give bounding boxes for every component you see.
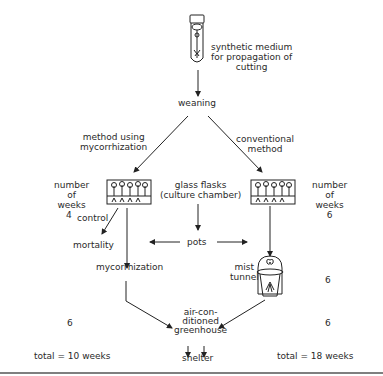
mist-line1: mist xyxy=(230,262,259,272)
right-weeks-value-1: 6 xyxy=(312,210,347,220)
left-weeks-line3: weeks xyxy=(54,200,89,210)
top-label-line1: synthetic medium xyxy=(211,42,292,52)
right-weeks-line3: weeks xyxy=(312,200,347,210)
mortality-label: mortality xyxy=(73,240,114,250)
right-weeks-line1: number xyxy=(312,180,347,190)
test-tube-icon xyxy=(190,15,204,62)
right-branch-title: conventional method xyxy=(236,134,294,154)
mist-tunnel-label: mist tunnel xyxy=(230,262,259,282)
pots-label: pots xyxy=(187,237,206,247)
mist-line2: tunnel xyxy=(230,272,259,282)
shelter-label: shelter xyxy=(182,353,213,363)
left-title-line1: method using xyxy=(80,132,147,142)
right-weeks-line2: of xyxy=(312,190,347,200)
greenhouse-label: air-con- ditioned greenhouse xyxy=(174,308,227,335)
left-weeks-line2: of xyxy=(54,190,89,200)
left-weeks-line1: number xyxy=(54,180,89,190)
right-weeks-value-3: 6 xyxy=(325,318,331,328)
left-title-line2: mycorrhization xyxy=(80,142,147,152)
control-label: control xyxy=(77,213,108,223)
mycorrhization-label: mycorrhization xyxy=(96,262,163,272)
mist-tunnel-pot-icon xyxy=(257,256,283,296)
top-label-line3: cutting xyxy=(211,62,292,72)
top-label-line2: for propagation of xyxy=(211,52,292,62)
right-title-line2: method xyxy=(236,144,294,154)
right-culture-box-icon xyxy=(251,180,295,204)
flasks-line1: glass flasks xyxy=(160,180,241,190)
flasks-label: glass flasks (culture chamber) xyxy=(160,180,241,200)
left-branch-title: method using mycorrhization xyxy=(80,132,147,152)
left-weeks-value-2: 6 xyxy=(67,318,73,328)
right-weeks-label: number of weeks 6 xyxy=(312,180,347,220)
right-weeks-value-2: 6 xyxy=(325,275,331,285)
right-title-line1: conventional xyxy=(236,134,294,144)
left-culture-box-icon xyxy=(107,180,151,204)
weaning-label: weaning xyxy=(178,98,216,108)
flasks-line2: (culture chamber) xyxy=(160,190,241,200)
greenhouse-line3: greenhouse xyxy=(174,326,227,335)
top-label: synthetic medium for propagation of cutt… xyxy=(211,42,292,72)
left-total: total = 10 weeks xyxy=(34,351,111,361)
right-total: total = 18 weeks xyxy=(277,351,354,361)
